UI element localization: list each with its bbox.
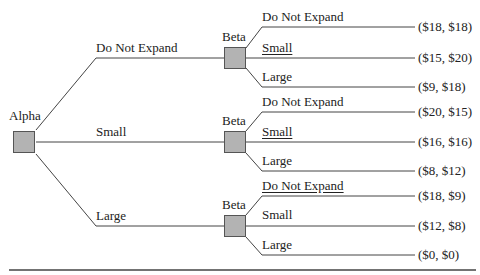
beta1-branch-small: Small bbox=[262, 41, 292, 55]
payoff: ($20, $15) bbox=[418, 105, 472, 119]
payoff: ($12, $8) bbox=[418, 219, 466, 233]
beta-label-1: Beta bbox=[222, 30, 246, 44]
beta3-branch-do-not-expand: Do Not Expand bbox=[262, 179, 344, 193]
beta-node-3 bbox=[224, 215, 246, 237]
payoff: ($0, $0) bbox=[418, 248, 459, 262]
payoff: ($18, $9) bbox=[418, 189, 466, 203]
beta-label-2: Beta bbox=[222, 114, 246, 128]
beta2-branch-large: Large bbox=[262, 154, 292, 168]
beta3-branch-large: Large bbox=[262, 238, 292, 252]
branch-label-large: Large bbox=[96, 209, 126, 223]
beta3-branch-small: Small bbox=[262, 208, 292, 222]
beta2-branch-small: Small bbox=[262, 125, 292, 139]
beta-node-2 bbox=[224, 131, 246, 153]
alpha-node bbox=[13, 131, 35, 153]
payoff: ($15, $20) bbox=[418, 51, 472, 65]
alpha-label: Alpha bbox=[9, 109, 41, 123]
payoff: ($18, $18) bbox=[418, 20, 472, 34]
beta-label-3: Beta bbox=[222, 198, 246, 212]
payoff: ($16, $16) bbox=[418, 135, 472, 149]
branch-label-small: Small bbox=[96, 125, 126, 139]
beta1-branch-do-not-expand: Do Not Expand bbox=[262, 10, 344, 24]
beta1-branch-large: Large bbox=[262, 70, 292, 84]
payoff: ($9, $18) bbox=[418, 80, 466, 94]
beta-node-1 bbox=[224, 47, 246, 69]
branch-label-do-not-expand: Do Not Expand bbox=[96, 41, 178, 55]
payoff: ($8, $12) bbox=[418, 164, 466, 178]
beta2-branch-do-not-expand: Do Not Expand bbox=[262, 95, 344, 109]
